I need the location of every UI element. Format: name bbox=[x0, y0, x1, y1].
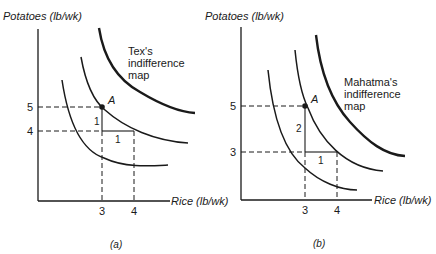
svg-text:indifference: indifference bbox=[344, 88, 401, 100]
panel-a: Potatoes (lb/wk) Rice (lb/wk) A 5 4 3 4 bbox=[3, 10, 229, 250]
y-tick-5: 5 bbox=[230, 100, 236, 112]
x-axis-label: Rice (lb/wk) bbox=[374, 194, 432, 206]
indifference-curve-1 bbox=[62, 80, 168, 166]
map-label: Tex's indifference map bbox=[128, 45, 185, 81]
step-horizontal-label: 1 bbox=[115, 134, 121, 145]
y-tick-3: 3 bbox=[230, 146, 236, 158]
svg-text:map: map bbox=[344, 100, 365, 112]
indifference-curve-2 bbox=[295, 50, 383, 171]
svg-text:Tex's: Tex's bbox=[128, 45, 153, 57]
x-tick-4: 4 bbox=[131, 205, 137, 217]
svg-text:indifference: indifference bbox=[128, 57, 185, 69]
indifference-map-figure: Potatoes (lb/wk) Rice (lb/wk) A 5 4 3 4 bbox=[0, 0, 436, 254]
point-a-label: A bbox=[107, 94, 115, 106]
y-tick-4: 4 bbox=[27, 125, 33, 137]
x-axis-label: Rice (lb/wk) bbox=[171, 195, 229, 207]
svg-text:Mahatma's: Mahatma's bbox=[344, 76, 398, 88]
point-a-marker bbox=[99, 104, 105, 110]
panel-b: Potatoes (lb/wk) Rice (lb/wk) A 5 3 3 4 … bbox=[205, 10, 432, 249]
panel-caption: (a) bbox=[110, 239, 122, 250]
x-tick-3: 3 bbox=[302, 204, 308, 216]
x-tick-4: 4 bbox=[334, 204, 340, 216]
svg-text:map: map bbox=[128, 69, 149, 81]
y-axis-label: Potatoes (lb/wk) bbox=[3, 10, 82, 22]
dashed-guides bbox=[241, 106, 337, 200]
y-tick-5: 5 bbox=[27, 101, 33, 113]
step-horizontal-label: 1 bbox=[318, 155, 324, 166]
point-a-marker bbox=[302, 103, 308, 109]
y-axis-label: Potatoes (lb/wk) bbox=[205, 10, 284, 22]
step-vertical-label: 1 bbox=[94, 116, 100, 127]
map-label: Mahatma's indifference map bbox=[344, 76, 401, 112]
panel-caption: (b) bbox=[313, 238, 325, 249]
step-vertical-label: 2 bbox=[296, 123, 302, 134]
x-tick-3: 3 bbox=[99, 205, 105, 217]
point-a-label: A bbox=[310, 93, 318, 105]
